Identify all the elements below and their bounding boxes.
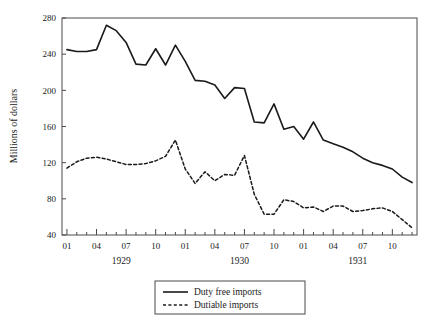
y-tick-label: 240 — [43, 49, 57, 59]
legend-label-1: Duty free imports — [194, 287, 262, 297]
x-axis-year-label: 1929 — [112, 256, 131, 266]
chart-figure: 4080120160200240280 01040710010407100104… — [0, 0, 429, 323]
y-axis-title: Millions of dollars — [8, 89, 19, 164]
x-tick-label: 04 — [210, 241, 220, 251]
y-axis-title-group: Millions of dollars — [8, 89, 19, 164]
y-tick-label: 200 — [43, 86, 57, 96]
x-axis-tick-labels: 010407100104071001040710 — [62, 241, 397, 251]
x-tick-label: 10 — [151, 241, 161, 251]
x-tick-label: 01 — [62, 241, 71, 251]
x-tick-label: 07 — [240, 241, 250, 251]
y-tick-label: 80 — [47, 194, 57, 204]
y-axis-tick-labels: 4080120160200240280 — [43, 13, 57, 240]
x-tick-label: 01 — [181, 241, 190, 251]
legend-label-2: Dutiable imports — [194, 300, 258, 310]
x-axis-year-labels: 192919301931 — [112, 256, 368, 266]
x-tick-label: 10 — [270, 241, 280, 251]
x-tick-label: 07 — [358, 241, 368, 251]
y-tick-label: 160 — [43, 122, 57, 132]
x-tick-label: 07 — [122, 241, 132, 251]
x-axis-year-label: 1931 — [348, 256, 367, 266]
x-tick-label: 04 — [329, 241, 339, 251]
x-tick-label: 10 — [388, 241, 398, 251]
y-tick-label: 280 — [43, 13, 57, 23]
x-tick-label: 01 — [299, 241, 308, 251]
chart-svg: 4080120160200240280 01040710010407100104… — [0, 0, 429, 323]
y-tick-label: 120 — [43, 158, 57, 168]
x-axis-year-label: 1930 — [230, 256, 249, 266]
x-tick-label: 04 — [92, 241, 102, 251]
y-tick-label: 40 — [47, 230, 57, 240]
plot-frame — [62, 18, 417, 235]
